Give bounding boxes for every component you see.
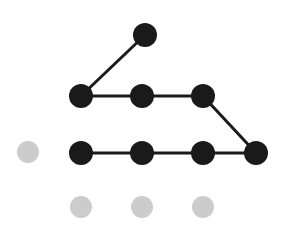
- graph-node-active[interactable]: [244, 141, 268, 165]
- graph-node-inactive[interactable]: [131, 196, 153, 218]
- graph-node-active[interactable]: [191, 141, 215, 165]
- graph-node-active[interactable]: [191, 84, 215, 108]
- graph-svg: [0, 0, 282, 233]
- graph-node-inactive[interactable]: [17, 141, 39, 163]
- graph-node-active[interactable]: [69, 141, 93, 165]
- diagram-canvas: [0, 0, 282, 233]
- graph-node-inactive[interactable]: [192, 196, 214, 218]
- graph-node-active[interactable]: [133, 23, 157, 47]
- graph-node-active[interactable]: [69, 84, 93, 108]
- graph-node-active[interactable]: [130, 84, 154, 108]
- graph-node-inactive[interactable]: [70, 196, 92, 218]
- graph-node-active[interactable]: [130, 141, 154, 165]
